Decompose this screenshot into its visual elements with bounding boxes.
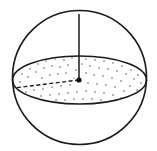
sphere-diagram xyxy=(0,0,157,151)
diagram-svg xyxy=(0,0,157,151)
dashed-radius xyxy=(14,80,79,88)
center-point xyxy=(76,77,81,82)
